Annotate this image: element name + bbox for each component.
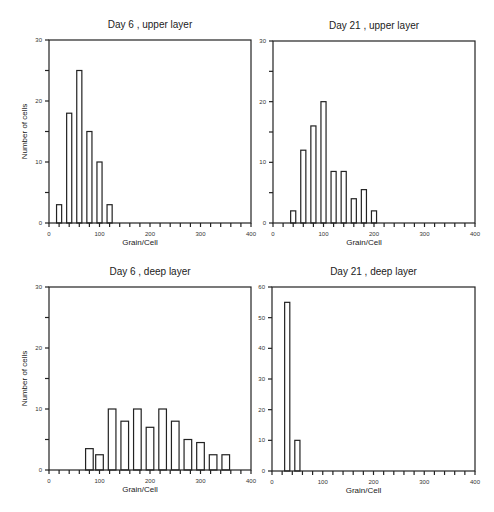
x-tick-label: 300 <box>419 479 430 485</box>
y-tick-label: 40 <box>258 345 265 351</box>
x-tick-label: 400 <box>470 479 481 485</box>
histogram-bar <box>285 302 290 471</box>
chart-title: Day 21 , deep layer <box>330 266 417 277</box>
y-tick-label: 50 <box>258 315 265 321</box>
x-tick-label: 200 <box>368 479 379 485</box>
y-tick-label: 60 <box>258 284 265 290</box>
x-axis-label: Grain/Cell <box>346 486 382 495</box>
x-tick-label: 0 <box>270 479 274 485</box>
histogram-bar <box>295 440 300 471</box>
y-tick-label: 20 <box>258 407 265 413</box>
y-tick-label: 0 <box>262 468 266 474</box>
plot-frame <box>272 287 475 471</box>
y-tick-label: 30 <box>258 376 265 382</box>
y-tick-label: 10 <box>258 437 265 443</box>
x-tick-label: 100 <box>318 479 329 485</box>
